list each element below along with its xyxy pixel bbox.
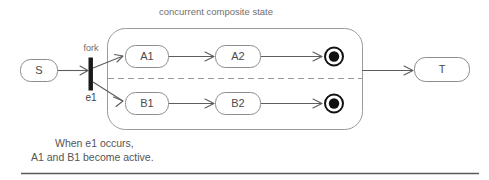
caption-line-1: When e1 occurs, xyxy=(55,137,134,149)
state-diagram: concurrent composite state S fork e1 A1 … xyxy=(0,0,489,180)
state-a2-label: A2 xyxy=(231,50,244,62)
composite-state-title: concurrent composite state xyxy=(159,6,273,17)
final-state-icon-b-inner xyxy=(329,98,339,108)
state-a1-label: A1 xyxy=(140,50,153,62)
state-b1-label: B1 xyxy=(140,97,153,109)
arrowhead-fork-to-b1 xyxy=(114,97,124,107)
diagram-page: concurrent composite state S fork e1 A1 … xyxy=(0,0,489,180)
event-label-e1: e1 xyxy=(85,92,97,103)
fork-label: fork xyxy=(83,43,99,53)
state-t-label: T xyxy=(439,63,446,75)
final-state-icon-a-inner xyxy=(329,51,339,61)
state-b2-label: B2 xyxy=(231,97,244,109)
state-s-label: S xyxy=(35,64,42,76)
fork-bar-icon[interactable] xyxy=(89,58,92,90)
caption-line-2: A1 and B1 become active. xyxy=(31,151,154,163)
